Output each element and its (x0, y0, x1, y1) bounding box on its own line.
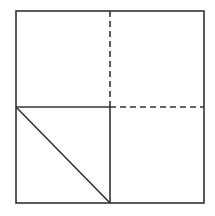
diagonal-bottom-left (16, 107, 110, 203)
folding-square-diagram (0, 0, 215, 216)
